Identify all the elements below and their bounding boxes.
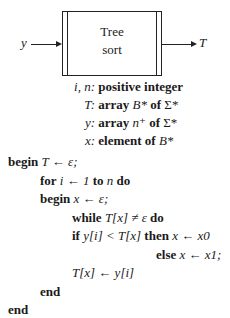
keyword: for — [40, 173, 57, 188]
declaration-x: x: element of B* — [40, 132, 183, 150]
code-line-5: if y[i] < T[x] then x ← x0 — [8, 227, 221, 246]
code-text: x ← x0 — [169, 228, 210, 243]
declaration-y: y: array n⁺ of Σ* — [40, 114, 183, 132]
box-right-bar — [156, 11, 157, 76]
keyword: if — [72, 228, 80, 243]
keyword: begin — [40, 191, 70, 206]
input-label: y — [21, 35, 27, 51]
output-arrowhead-icon — [191, 41, 197, 47]
keyword: while — [72, 210, 102, 225]
code-text: x ← ε; — [70, 191, 108, 206]
code-text: n — [104, 173, 117, 188]
declaration-i-n: i, n: positive integer — [40, 78, 183, 96]
declaration-desc: of — [147, 97, 164, 112]
code-line-6: else x ← x1; — [8, 246, 221, 265]
algorithm-code: begin T ← ε; for i ← 1 to n do begin x ←… — [8, 153, 221, 318]
code-line-9: end — [8, 301, 221, 318]
code-line-4: while T[x] ≠ ε do — [8, 209, 221, 228]
declaration-T: T: array B* of Σ* — [40, 96, 183, 114]
code-text: T ← ε; — [38, 154, 77, 169]
declaration-desc: array — [98, 97, 132, 112]
declaration-vars: i, n: — [40, 78, 95, 96]
declaration-desc: positive integer — [98, 79, 183, 94]
code-line-2: for i ← 1 to n do — [8, 172, 221, 191]
box-label-line1: Tree — [68, 23, 156, 41]
keyword: to — [93, 173, 104, 188]
declaration-type: n⁺ — [133, 115, 146, 130]
keyword: do — [117, 173, 131, 188]
output-arrow-line — [162, 44, 192, 45]
declaration-desc: element of — [98, 133, 159, 148]
declarations: i, n: positive integer T: array B* of Σ*… — [40, 78, 183, 150]
code-text: i ← 1 — [57, 173, 93, 188]
code-line-3: begin x ← ε; — [8, 190, 221, 209]
code-line-8: end — [8, 283, 221, 302]
keyword: then — [144, 228, 169, 243]
code-text: y[i] < T[x] — [80, 228, 144, 243]
keyword: do — [150, 210, 164, 225]
input-arrow-line — [31, 44, 57, 45]
declaration-vars: x: — [40, 132, 95, 150]
keyword: begin — [8, 154, 38, 169]
box-label-line2: sort — [68, 41, 156, 59]
output-label: T — [199, 35, 206, 51]
declaration-type: Σ* — [163, 115, 177, 130]
code-line-7: T[x] ← y[i] — [8, 264, 221, 283]
code-text: T[x] ≠ ε — [102, 210, 150, 225]
declaration-desc: of — [146, 115, 163, 130]
code-text: T[x] ← y[i] — [72, 265, 134, 280]
code-text: x ← x1; — [176, 247, 221, 262]
declaration-desc: array — [98, 115, 132, 130]
declaration-vars: T: — [40, 96, 95, 114]
box-label: Tree sort — [68, 23, 156, 59]
declaration-type: B* — [159, 133, 173, 148]
declaration-type: B* — [133, 97, 147, 112]
declaration-vars: y: — [40, 114, 95, 132]
keyword: end — [8, 302, 28, 317]
code-line-1: begin T ← ε; — [8, 153, 221, 172]
declaration-type: Σ* — [164, 97, 178, 112]
keyword: else — [156, 247, 176, 262]
keyword: end — [40, 284, 60, 299]
